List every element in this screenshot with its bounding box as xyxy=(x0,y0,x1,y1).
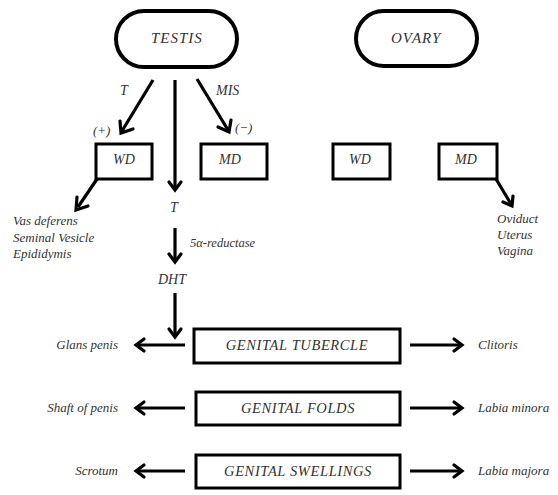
mullerian-derivative: Oviduct xyxy=(497,212,538,225)
female-md-label: MD xyxy=(455,153,477,167)
arrow-folds-to-shaft xyxy=(136,402,185,414)
wolffian-derivative: Seminal Vesicle xyxy=(13,231,94,244)
ovary-label: OVARY xyxy=(391,31,441,46)
arrow-md-to-derivatives xyxy=(496,179,513,206)
arrow-t-to-dht xyxy=(169,228,181,262)
hormone-t-center-label: T xyxy=(170,201,178,215)
arrow-tubercle-to-clitoris xyxy=(410,339,462,351)
hormone-t-left-label: T xyxy=(120,84,128,98)
mis-label: MIS xyxy=(216,84,239,98)
arrow-swellings-to-labia-majora xyxy=(410,465,462,477)
genital-folds-label: GENITAL FOLDS xyxy=(196,401,400,416)
female-wd-label: WD xyxy=(349,153,371,167)
positive-effect-label: (+) xyxy=(93,124,110,137)
wolffian-derivative: Epididymis xyxy=(13,247,72,260)
negative-effect-label: (−) xyxy=(235,121,252,134)
female-external-derivative: Clitoris xyxy=(478,338,518,351)
arrow-wd-to-derivatives xyxy=(76,179,97,210)
dht-label: DHT xyxy=(158,273,186,287)
arrow-testis-to-t xyxy=(169,80,181,190)
arrow-dht-to-tubercle xyxy=(169,293,181,337)
testis-label: TESTIS xyxy=(151,31,203,46)
mullerian-derivative: Uterus xyxy=(497,228,532,241)
male-md-label: MD xyxy=(219,153,241,167)
mullerian-derivative: Vagina xyxy=(497,244,533,257)
genital-swellings-label: GENITAL SWELLINGS xyxy=(196,464,400,479)
diagram-canvas xyxy=(0,0,558,495)
female-external-derivative: Labia minora xyxy=(478,401,549,414)
male-external-derivative: Shaft of penis xyxy=(47,401,118,414)
enzyme-label: 5α-reductase xyxy=(190,237,255,250)
arrow-folds-to-labia-minora xyxy=(410,402,462,414)
female-external-derivative: Labia majora xyxy=(478,464,549,477)
arrow-tubercle-to-glans xyxy=(136,339,185,351)
male-external-derivative: Glans penis xyxy=(56,338,118,351)
genital-tubercle-label: GENITAL TUBERCLE xyxy=(194,338,400,353)
male-external-derivative: Scrotum xyxy=(75,464,118,477)
male-wd-label: WD xyxy=(113,153,135,167)
arrow-swellings-to-scrotum xyxy=(136,465,185,477)
wolffian-derivative: Vas deferens xyxy=(13,214,78,227)
